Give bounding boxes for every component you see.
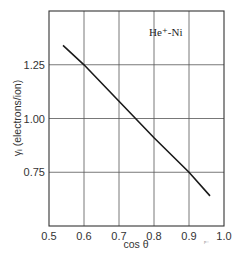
chart: 0.50.60.70.80.91.0 0.751.001.25 He⁺-Ni c…: [0, 0, 242, 256]
x-axis-label: cos θ: [123, 238, 148, 250]
x-tick-label: 0.6: [76, 230, 91, 242]
x-tick-label: 0.8: [146, 230, 161, 242]
series-annotation: He⁺-Ni: [149, 26, 183, 38]
x-tick-label: 0.9: [181, 230, 196, 242]
x-tick-label: 1.0: [216, 230, 231, 242]
y-axis-label: γᵢ (electrons/ion): [11, 80, 23, 156]
y-tick-label: 0.75: [24, 166, 45, 178]
y-tick-label: 1.00: [24, 113, 45, 125]
series-line: [63, 45, 210, 196]
y-axis-ticks: 0.751.001.25: [24, 59, 45, 179]
y-tick-label: 1.25: [24, 59, 45, 71]
stray-mark: ᵖ⁻: [204, 240, 209, 246]
x-tick-label: 0.5: [41, 230, 56, 242]
